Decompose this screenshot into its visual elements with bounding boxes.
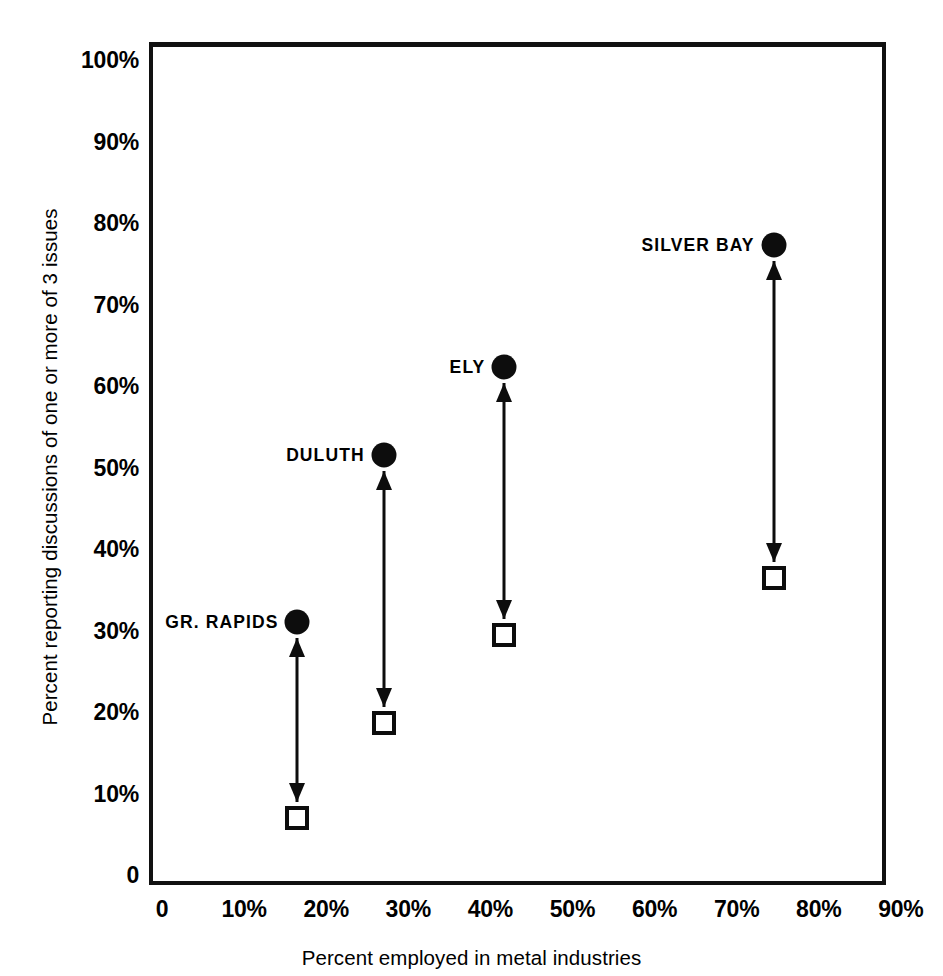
y-tick-label: 60% (53, 375, 139, 398)
y-tick-label: 80% (53, 212, 139, 235)
y-tick-label: 70% (53, 293, 139, 316)
x-tick-label: 0 (122, 898, 202, 921)
range-connector-line (772, 261, 775, 562)
marker-open-square[interactable] (372, 711, 396, 735)
y-tick-label: 10% (53, 782, 139, 805)
y-axis-ticks: 010%20%30%40%50%60%70%80%90%100% (35, 0, 139, 976)
marker-filled-circle[interactable] (492, 355, 517, 380)
marker-open-square[interactable] (492, 623, 516, 647)
x-tick-label: 20% (286, 898, 366, 921)
arrow-up-icon (376, 471, 392, 490)
arrow-up-icon (289, 638, 305, 657)
arrow-up-icon (496, 383, 512, 402)
y-tick-label: 20% (53, 701, 139, 724)
data-point-label: SILVER BAY (642, 235, 755, 256)
plot-area (149, 42, 886, 885)
marker-open-square[interactable] (285, 806, 309, 830)
x-axis-title: Percent employed in metal industries (0, 946, 943, 970)
x-tick-label: 70% (697, 898, 777, 921)
marker-filled-circle[interactable] (371, 443, 396, 468)
y-tick-label: 40% (53, 538, 139, 561)
range-connector-line (503, 383, 506, 618)
y-tick-label: 30% (53, 619, 139, 642)
y-tick-label: 90% (53, 130, 139, 153)
marker-filled-circle[interactable] (285, 610, 310, 635)
x-tick-label: 50% (533, 898, 613, 921)
y-tick-label: 50% (53, 456, 139, 479)
range-connector-line (296, 638, 299, 802)
chart-page: Percent reporting discussions of one or … (0, 0, 943, 976)
x-tick-label: 90% (861, 898, 941, 921)
arrow-down-icon (496, 600, 512, 619)
arrow-down-icon (766, 543, 782, 562)
x-tick-label: 60% (615, 898, 695, 921)
arrow-down-icon (289, 783, 305, 802)
marker-open-square[interactable] (762, 566, 786, 590)
y-tick-label: 100% (53, 49, 139, 72)
range-connector-line (382, 471, 385, 706)
x-tick-label: 80% (779, 898, 859, 921)
arrow-down-icon (376, 688, 392, 707)
y-tick-label: 0 (53, 864, 139, 887)
x-axis-ticks: 010%20%30%40%50%60%70%80%90% (0, 898, 943, 932)
x-tick-label: 10% (204, 898, 284, 921)
data-point-label: DULUTH (286, 445, 365, 466)
x-tick-label: 40% (450, 898, 530, 921)
marker-filled-circle[interactable] (761, 233, 786, 258)
data-point-label: ELY (450, 357, 486, 378)
data-point-label: GR. RAPIDS (165, 612, 278, 633)
arrow-up-icon (766, 261, 782, 280)
x-tick-label: 30% (368, 898, 448, 921)
